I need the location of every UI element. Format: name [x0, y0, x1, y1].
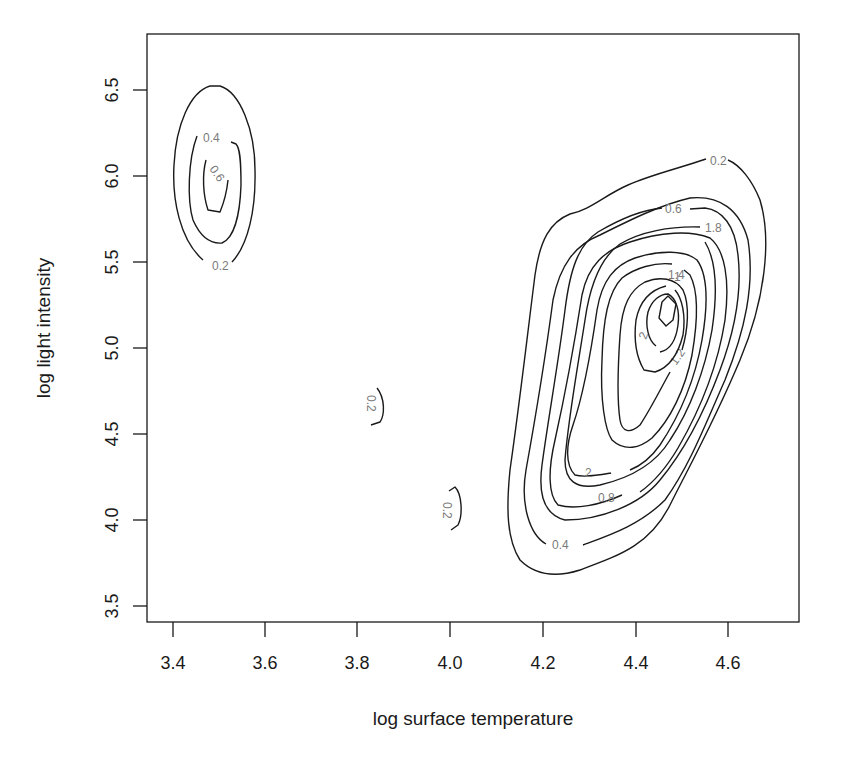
contour-label: 0.6: [207, 163, 228, 185]
contour-group-main: 0.2 0.4 0.6 0.8 1.8 2 1 1.2 1.4 2: [508, 154, 766, 574]
contour-label: 0.2: [364, 395, 378, 412]
plot-frame: [147, 34, 799, 622]
contour-group-left: 0.2 0.4 0.6: [174, 86, 255, 273]
x-tick-label: 3.6: [252, 653, 277, 673]
contour-label: 0.6: [665, 202, 682, 216]
contour-label: 0.4: [203, 131, 220, 145]
contour-label: 1.8: [705, 221, 722, 235]
x-tick-label: 4.6: [715, 653, 740, 673]
contour-label: 0.4: [552, 538, 569, 552]
y-tick-label: 6.0: [102, 163, 122, 188]
contour-label: 2: [585, 466, 592, 480]
contour-label: 0.8: [598, 491, 615, 505]
x-axis: [173, 622, 728, 637]
contour-label: 0.2: [710, 154, 727, 168]
y-tick-labels: 3.5 4.0 4.5 5.0 5.5 6.0 6.5: [102, 77, 122, 618]
y-axis-title: log light intensity: [33, 257, 54, 398]
contour-group-small-1: 0.2: [364, 388, 383, 425]
y-axis: [133, 90, 147, 606]
x-axis-title: log surface temperature: [373, 708, 574, 729]
x-tick-label: 4.2: [530, 653, 555, 673]
contour-label: 0.2: [440, 502, 454, 519]
y-tick-label: 5.5: [102, 249, 122, 274]
y-tick-label: 3.5: [102, 593, 122, 618]
y-tick-label: 4.5: [102, 421, 122, 446]
contour-group-small-2: 0.2: [440, 487, 461, 530]
x-tick-label: 4.4: [623, 653, 648, 673]
contour-chart: 3.4 3.6 3.8 4.0 4.2 4.4 4.6 3.5 4.0 4.5 …: [0, 0, 842, 758]
contour-label: 0.2: [212, 259, 229, 273]
y-tick-label: 4.0: [102, 507, 122, 532]
x-tick-label: 3.4: [160, 653, 185, 673]
contour-label: 1.4: [668, 268, 685, 282]
y-tick-label: 6.5: [102, 77, 122, 102]
contour-label: 2: [636, 330, 652, 341]
x-tick-label: 3.8: [344, 653, 369, 673]
x-tick-labels: 3.4 3.6 3.8 4.0 4.2 4.4 4.6: [160, 653, 740, 673]
x-tick-label: 4.0: [437, 653, 462, 673]
y-tick-label: 5.0: [102, 335, 122, 360]
